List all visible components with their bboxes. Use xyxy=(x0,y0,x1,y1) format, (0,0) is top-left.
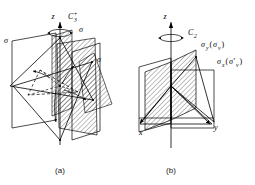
plane-label-b-sigma-y: σ y ( σ v ) xyxy=(201,40,225,51)
vertex-b-lower xyxy=(170,117,172,119)
rotation-label-a: C 3 + xyxy=(68,11,77,23)
sigma-x-subscript: x xyxy=(221,62,225,68)
plane-label-b-sigma-x: σ x ( σ′ v ) xyxy=(217,57,243,68)
vertex-a-right xyxy=(91,61,93,63)
caption-b: (b) xyxy=(166,166,176,175)
axis-x-label-b: x xyxy=(138,128,143,137)
mirror-plane-b-sigma-x xyxy=(145,62,171,130)
mirror-plane-b-sigma-y xyxy=(171,50,196,120)
vertex-a-bottom xyxy=(59,139,61,141)
caption-a: (a) xyxy=(55,166,65,175)
sigma-x-inner: σ′ xyxy=(229,57,235,66)
axis-y-label-b: y xyxy=(213,123,218,132)
origin-b xyxy=(170,85,172,87)
vertex-b-upper xyxy=(195,56,197,58)
sigma-y-paren-close: ) xyxy=(222,40,225,49)
sigma-x-paren-close: ) xyxy=(240,57,243,66)
figure-background xyxy=(0,0,255,185)
rotation-label-a-superscript: + xyxy=(74,11,77,17)
rotation-label-a-subscript: 3 xyxy=(73,17,77,23)
rotation-label-b-subscript: 2 xyxy=(194,33,197,39)
symmetry-figure: z C 3 + σ σ σ xyxy=(0,0,255,185)
vertex-a-top xyxy=(59,37,61,39)
vertex-a-lower-right xyxy=(92,99,94,101)
sigma-y-subscript: y xyxy=(205,45,209,51)
origin-a xyxy=(59,85,61,87)
